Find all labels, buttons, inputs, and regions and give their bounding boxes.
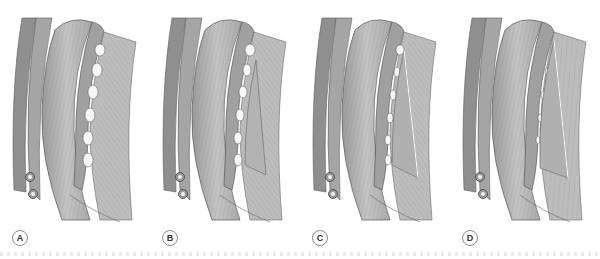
muscle-illustration-b xyxy=(150,0,300,230)
truncated-caption xyxy=(0,252,600,256)
panel-a: A xyxy=(0,0,150,250)
panel-label-a: A xyxy=(12,230,28,246)
muscle-illustration-c xyxy=(300,0,450,230)
muscle-illustration-a xyxy=(0,0,150,230)
panel-label-b: B xyxy=(162,230,178,246)
panel-d: D xyxy=(450,0,600,250)
panel-c: C xyxy=(300,0,450,250)
panel-b: B xyxy=(150,0,300,250)
panel-label-c: C xyxy=(312,230,328,246)
anatomical-figure: A B xyxy=(0,0,600,259)
muscle-illustration-d xyxy=(450,0,600,230)
panel-label-d: D xyxy=(462,230,478,246)
